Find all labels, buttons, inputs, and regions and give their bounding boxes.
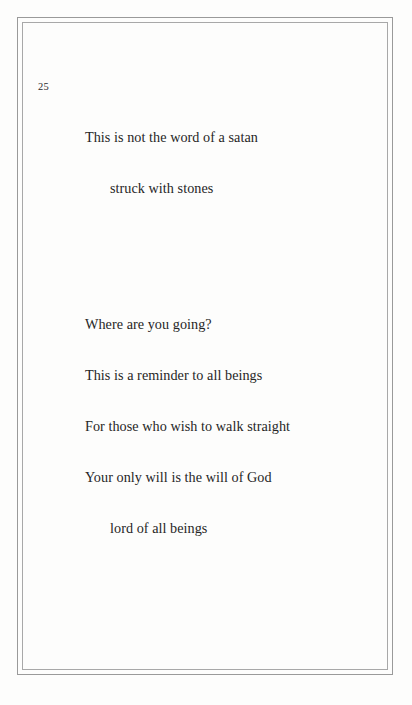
poem-line: struck with stones: [85, 180, 412, 197]
stanza-separator: [85, 248, 412, 265]
poem-line: This is a reminder to all beings: [85, 367, 412, 384]
verse-line-number: 25: [38, 81, 49, 92]
poem-text: This is not the word of a satan struck w…: [85, 78, 412, 588]
poem-block: 25 This is not the word of a satan struc…: [0, 78, 412, 588]
page-content: 25 This is not the word of a satan struc…: [0, 0, 412, 705]
book-page: 25 This is not the word of a satan struc…: [0, 0, 412, 705]
poem-line: For those who wish to walk straight: [85, 418, 412, 435]
poem-line: This is not the word of a satan: [85, 129, 412, 146]
poem-line: Where are you going?: [85, 316, 412, 333]
poem-line: Your only will is the will of God: [85, 469, 412, 486]
poem-line: lord of all beings: [85, 520, 412, 537]
